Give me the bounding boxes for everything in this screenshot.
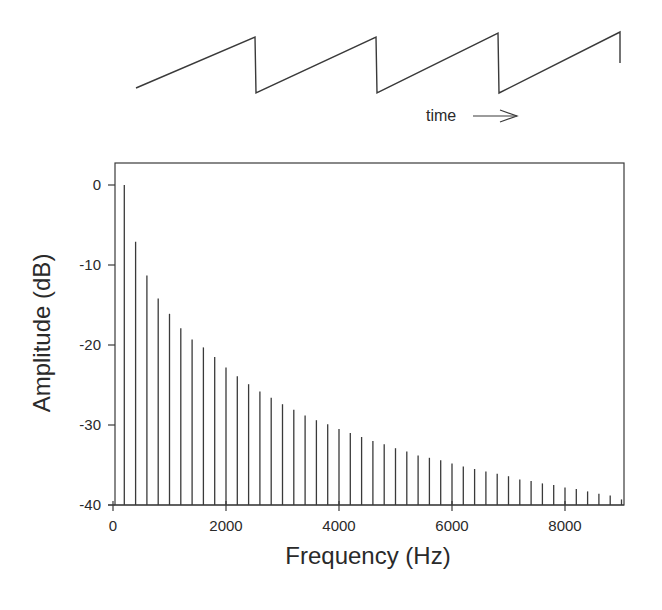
y-axis-title: Amplitude (dB) bbox=[28, 254, 55, 413]
x-tick-label: 6000 bbox=[435, 517, 468, 534]
y-tick-label: -10 bbox=[79, 256, 101, 273]
x-axis: 02000400060008000 bbox=[108, 501, 624, 534]
y-tick-label: -30 bbox=[79, 416, 101, 433]
time-label: time bbox=[426, 107, 456, 124]
spectrum-chart: 02000400060008000 0-10-20-30-40 Frequenc… bbox=[28, 163, 624, 569]
y-tick-label: 0 bbox=[93, 176, 101, 193]
x-axis-title: Frequency (Hz) bbox=[285, 542, 450, 569]
time-arrow-icon bbox=[473, 110, 517, 122]
waveform-panel: time bbox=[136, 32, 620, 124]
x-tick-label: 8000 bbox=[548, 517, 581, 534]
figure: time 02000400060008000 0-10-20-30-40 Fre… bbox=[0, 0, 662, 610]
x-tick-label: 4000 bbox=[322, 517, 355, 534]
harmonic-stems bbox=[124, 185, 621, 505]
x-tick-label: 2000 bbox=[209, 517, 242, 534]
y-tick-label: -40 bbox=[79, 496, 101, 513]
y-tick-label: -20 bbox=[79, 336, 101, 353]
y-axis: 0-10-20-30-40 bbox=[79, 176, 115, 513]
x-tick-label: 0 bbox=[109, 517, 117, 534]
sawtooth-waveform bbox=[136, 32, 620, 93]
plot-frame bbox=[115, 163, 624, 505]
